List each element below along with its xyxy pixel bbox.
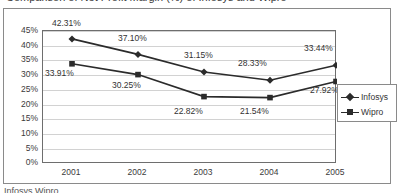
y-tick-label: 10% xyxy=(8,129,38,137)
data-label-infosys: 31.15% xyxy=(184,51,213,60)
y-tick-label: 35% xyxy=(8,55,38,63)
marker-infosys xyxy=(135,51,142,58)
y-tick-label: 45% xyxy=(8,26,38,34)
data-label-wipro: 27.92% xyxy=(310,86,339,95)
chart-caption-text: Infosys Wipro xyxy=(0,186,394,193)
x-tick-label: 2005 xyxy=(315,168,355,177)
x-tick-label: 2004 xyxy=(249,168,289,177)
data-label-infosys: 28.33% xyxy=(238,59,267,68)
legend-label: Wipro xyxy=(361,107,383,117)
square-marker-icon xyxy=(341,107,359,117)
y-tick-label: 20% xyxy=(8,100,38,108)
data-label-wipro: 22.82% xyxy=(174,107,203,116)
data-label-infosys: 33.44% xyxy=(304,44,333,53)
marker-infosys xyxy=(201,69,208,76)
marker-wipro xyxy=(135,72,141,78)
chart-frame: 45% 40% 35% 30% 25% 20% 15% 10% 5% 0% 20… xyxy=(3,8,391,184)
data-label-wipro: 21.54% xyxy=(240,107,269,116)
data-label-wipro: 30.25% xyxy=(112,81,141,90)
y-tick-label: 40% xyxy=(8,41,38,49)
data-label-wipro: 33.91% xyxy=(45,69,74,78)
diamond-marker-icon xyxy=(341,92,359,102)
legend-item-wipro[interactable]: Wipro xyxy=(341,105,383,119)
line-chart: 45% 40% 35% 30% 25% 20% 15% 10% 5% 0% 20… xyxy=(4,9,392,185)
x-tick-label: 2001 xyxy=(51,168,91,177)
x-tick-label: 2002 xyxy=(117,168,157,177)
y-tick-label: 30% xyxy=(8,70,38,78)
legend-item-infosys[interactable]: Infosys xyxy=(341,90,388,104)
y-tick-label: 0% xyxy=(8,158,38,166)
marker-infosys xyxy=(333,62,338,69)
marker-wipro xyxy=(201,94,207,100)
marker-infosys xyxy=(69,35,76,42)
data-label-infosys: 37.10% xyxy=(118,34,147,43)
marker-wipro xyxy=(69,61,75,67)
chart-title-text: Comparison of Net Profit Margin (%) of I… xyxy=(0,0,394,4)
data-label-infosys: 42.31% xyxy=(52,19,81,28)
x-tick-label: 2003 xyxy=(183,168,223,177)
legend-label: Infosys xyxy=(361,92,388,102)
y-tick-label: 25% xyxy=(8,85,38,93)
y-tick-label: 15% xyxy=(8,114,38,122)
y-tick-label: 5% xyxy=(8,144,38,152)
marker-infosys xyxy=(267,77,274,84)
chart-caption-clipped: Infosys Wipro xyxy=(0,186,394,193)
chart-legend[interactable]: Infosys Wipro xyxy=(337,84,397,122)
marker-wipro xyxy=(267,95,273,101)
chart-title-clipped: Comparison of Net Profit Margin (%) of I… xyxy=(0,0,394,4)
